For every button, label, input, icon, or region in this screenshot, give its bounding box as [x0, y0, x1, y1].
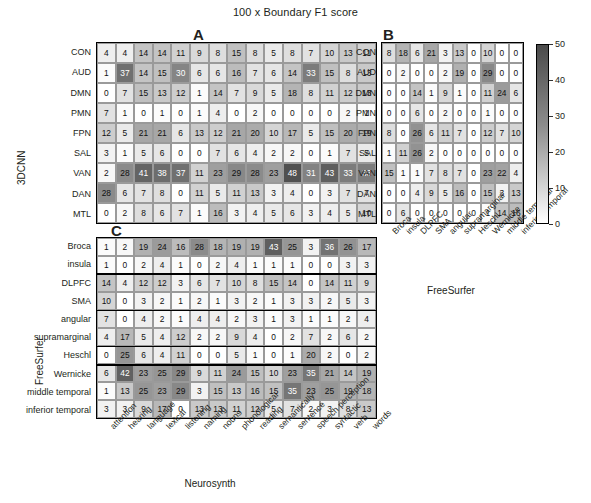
- heatmap-cell: 28: [190, 238, 209, 256]
- heatmap-cell: 0: [467, 123, 481, 143]
- heatmap-cell: 2: [97, 163, 116, 183]
- heatmap-cell: 7: [171, 203, 190, 223]
- heatmap-cell: 0: [320, 256, 339, 274]
- heatmap-cell: 1: [153, 103, 172, 123]
- heatmap-cell: 29: [481, 63, 495, 83]
- heatmap-cell: 13: [116, 382, 135, 400]
- heatmap-cell: 28: [116, 163, 135, 183]
- row-label-aud: AUD: [0, 67, 91, 77]
- heatmap-cell: 1: [481, 103, 495, 123]
- heatmap-cell: 1: [283, 256, 302, 274]
- heatmap-cell: 0: [509, 143, 523, 163]
- heatmap-cell: 1: [264, 292, 283, 310]
- heatmap-cell: 43: [264, 238, 283, 256]
- heatmap-cell: 0: [495, 143, 509, 163]
- heatmap-cell: 3: [227, 292, 246, 310]
- heatmap-cell: 0: [396, 83, 410, 103]
- heatmap-cell: 23: [134, 364, 153, 382]
- row-label-sal: SAL: [221, 148, 376, 158]
- heatmap-cell: 1: [97, 238, 116, 256]
- heatmap-cell: 23: [283, 364, 302, 382]
- group-separator: [96, 346, 377, 347]
- heatmap-cell: 11: [209, 364, 228, 382]
- heatmap-cell: 0: [264, 346, 283, 364]
- colorbar-tick-label: 50: [555, 39, 565, 49]
- heatmap-cell: 4: [357, 310, 376, 328]
- heatmap-cell: 6: [171, 123, 190, 143]
- heatmap-cell: 2: [227, 310, 246, 328]
- heatmap-cell: 9: [190, 364, 209, 382]
- heatmap-cell: 8: [438, 163, 452, 183]
- heatmap-cell: 26: [410, 123, 424, 143]
- heatmap-cell: 1: [410, 163, 424, 183]
- heatmap-cell: 1: [264, 256, 283, 274]
- heatmap-cell: 35: [302, 364, 321, 382]
- heatmap-cell: 23: [153, 382, 172, 400]
- heatmap-cell: 3: [357, 292, 376, 310]
- heatmap-cell: 5: [116, 123, 135, 143]
- heatmap-cell: 2: [339, 310, 358, 328]
- heatmap-cell: 8: [382, 123, 396, 143]
- heatmap-cell: 4: [153, 346, 172, 364]
- heatmap-cell: 0: [467, 63, 481, 83]
- heatmap-cell: 38: [153, 163, 172, 183]
- heatmap-cell: 0: [264, 328, 283, 346]
- heatmap-cell: 3: [302, 292, 321, 310]
- heatmap-cell: 13: [227, 382, 246, 400]
- heatmap-cell: 3: [438, 43, 452, 63]
- heatmap-cell: 0: [209, 346, 228, 364]
- heatmap-cell: 0: [396, 123, 410, 143]
- heatmap-cell: 2: [396, 63, 410, 83]
- heatmap-cell: 1: [246, 256, 265, 274]
- heatmap-cell: 28: [97, 183, 116, 203]
- heatmap-cell: 18: [209, 238, 228, 256]
- heatmap-cell: 0: [190, 256, 209, 274]
- heatmap-cell: 2: [116, 238, 135, 256]
- heatmap-cell: 2: [357, 346, 376, 364]
- heatmap-cell: 13: [190, 123, 209, 143]
- heatmap-cell: 3: [283, 310, 302, 328]
- row-label-wernicke: Wernicke: [0, 369, 91, 379]
- row-label-dlpfc: DLPFC: [0, 278, 91, 288]
- heatmap-cell: 21: [153, 123, 172, 143]
- colorbar-tick-mark: [549, 116, 553, 117]
- heatmap-cell: 1: [283, 346, 302, 364]
- heatmap-cell: 12: [481, 123, 495, 143]
- heatmap-cell: 36: [320, 238, 339, 256]
- heatmap-cell: 3: [190, 382, 209, 400]
- heatmap-cell: 0: [97, 203, 116, 223]
- group-separator: [96, 364, 377, 365]
- heatmap-cell: 1: [116, 103, 135, 123]
- heatmap-cell: 1: [396, 163, 410, 183]
- heatmap-cell: 2: [424, 143, 438, 163]
- heatmap-cell: 1: [320, 310, 339, 328]
- heatmap-cell: 12: [171, 83, 190, 103]
- heatmap-cell: 0: [495, 43, 509, 63]
- heatmap-cell: 3: [97, 143, 116, 163]
- heatmap-cell: 7: [424, 163, 438, 183]
- heatmap-cell: 15: [134, 83, 153, 103]
- row-label-van: VAN: [0, 168, 91, 178]
- colorbar-tick-label: 20: [555, 147, 565, 157]
- heatmap-cell: 12: [171, 328, 190, 346]
- heatmap-cell: 6: [190, 274, 209, 292]
- heatmap-cell: 0: [134, 103, 153, 123]
- heatmap-grid-panel-c: 1219241628181919432533626171024102411100…: [96, 237, 377, 419]
- heatmap-cell: 0: [438, 143, 452, 163]
- row-label-middle-temporal: middle temporal: [0, 387, 91, 397]
- colorbar-tick-label: 10: [555, 183, 565, 193]
- heatmap-cell: 1: [424, 83, 438, 103]
- heatmap-cell: 19: [134, 238, 153, 256]
- heatmap-cell: 0: [339, 346, 358, 364]
- heatmap-cell: 4: [116, 43, 135, 63]
- heatmap-cell: 2: [116, 203, 135, 223]
- heatmap-cell: 18: [396, 43, 410, 63]
- heatmap-cell: 4: [246, 328, 265, 346]
- heatmap-cell: 0: [410, 63, 424, 83]
- panel-letter-a: A: [193, 26, 204, 43]
- heatmap-cell: 0: [302, 274, 321, 292]
- axis-title-neurosynth: Neurosynth: [150, 478, 270, 489]
- heatmap-cell: 2: [190, 292, 209, 310]
- heatmap-cell: 4: [97, 328, 116, 346]
- heatmap-cell: 11: [190, 183, 209, 203]
